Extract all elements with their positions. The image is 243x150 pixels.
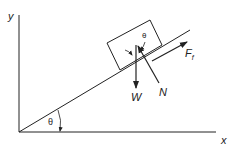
block-angle-arc-right bbox=[140, 42, 145, 50]
friction-label: Ff bbox=[185, 48, 194, 61]
y-axis-label: y bbox=[8, 11, 14, 22]
normal-arrow bbox=[138, 46, 159, 83]
friction-arrow bbox=[152, 42, 187, 61]
block bbox=[107, 20, 162, 70]
incline-surface bbox=[19, 30, 190, 132]
incline-angle-label: θ bbox=[48, 118, 53, 127]
x-axis-label: x bbox=[221, 135, 227, 146]
incline-diagram: y x θ θ W N Ff bbox=[0, 0, 243, 150]
incline-angle-arc bbox=[58, 110, 61, 131]
block-angle-label: θ bbox=[142, 32, 146, 40]
weight-label: W bbox=[131, 92, 141, 103]
block-angle-arc-left bbox=[125, 50, 132, 55]
normal-label: N bbox=[159, 87, 167, 98]
diagram-canvas bbox=[0, 0, 243, 150]
friction-label-sub: f bbox=[192, 54, 194, 61]
friction-label-main: F bbox=[185, 47, 192, 59]
